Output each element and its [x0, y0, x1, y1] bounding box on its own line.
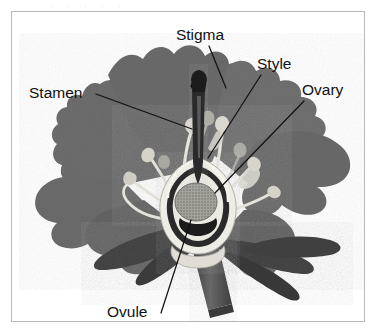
stamen-anther-bg-1 [158, 155, 170, 169]
label-ovule: Ovule [107, 303, 148, 320]
stamen-anther-bg-3 [234, 143, 247, 158]
flower-diagram-svg: Stigma Style Ovary Stamen Ovule [12, 12, 364, 321]
stamen-anther [124, 172, 135, 185]
label-ovary: Ovary [302, 81, 344, 98]
ovule-body [175, 183, 217, 221]
scan-artifact-top: . . . . . [0, 0, 377, 8]
figure-page: . . . . . [0, 0, 377, 335]
figure-frame: Stigma Style Ovary Stamen Ovule [11, 11, 365, 322]
label-stigma: Stigma [176, 26, 225, 43]
label-stamen: Stamen [29, 84, 82, 101]
label-style: Style [257, 55, 291, 72]
